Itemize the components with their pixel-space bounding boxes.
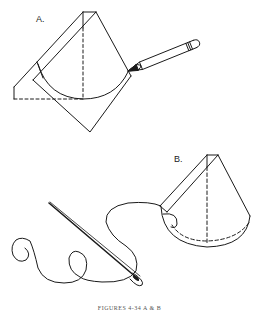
outer-left-fold-edge xyxy=(14,12,83,87)
panel-b-drawing xyxy=(160,155,250,247)
figure-caption: FIGURES 4-34 A & B xyxy=(0,305,259,311)
diagram-canvas xyxy=(0,0,259,313)
panel-b-label: B. xyxy=(174,154,183,164)
pencil-icon xyxy=(127,38,201,74)
diagram-figure: A. B. FIGURES 4-34 A & B xyxy=(0,0,259,313)
thread-icon xyxy=(12,202,161,283)
cone-right-edge xyxy=(96,12,131,76)
outer-left-edge-b xyxy=(160,155,207,206)
panel-a-drawing xyxy=(14,12,131,132)
cone-right-edge-b xyxy=(218,155,250,216)
panel-a-label: A. xyxy=(36,14,45,24)
square-lower-edges xyxy=(33,76,131,132)
needle-icon xyxy=(49,202,143,286)
